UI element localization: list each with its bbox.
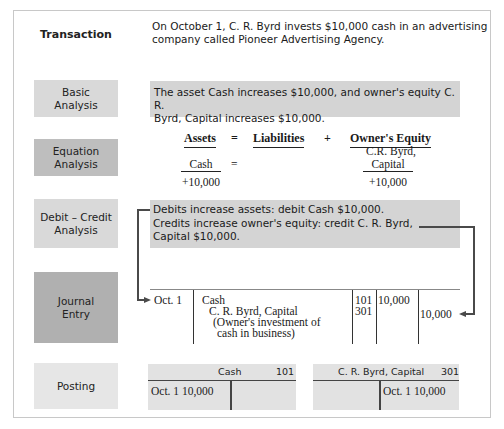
t-account-cash-debit-entry: Oct. 1 10,000 bbox=[151, 385, 214, 397]
basic-analysis-label: Basic Analysis bbox=[34, 80, 118, 117]
debit-connector-vertical bbox=[137, 209, 139, 301]
transaction-text: On October 1, C. R. Byrd invests $10,000… bbox=[152, 20, 492, 46]
t-account-capital-divider bbox=[379, 380, 381, 410]
credit-connector-horizontal-bottom bbox=[466, 313, 475, 315]
debit-credit-label-line1: Debit – Credit bbox=[40, 211, 112, 224]
journal-date: Oct. 1 bbox=[154, 295, 182, 306]
t-account-capital-credit-entry: Oct. 1 10,000 bbox=[383, 385, 446, 397]
t-account-cash-name: Cash bbox=[218, 366, 241, 377]
t-account-cash: Cash 101 Oct. 1 10,000 bbox=[148, 364, 296, 410]
equation-assets-account: Cash bbox=[181, 158, 221, 172]
transaction-text-line1: On October 1, C. R. Byrd invests $10,000… bbox=[152, 20, 492, 33]
debit-credit-text: Debits increase assets: debit Cash $10,0… bbox=[150, 200, 460, 248]
t-account-capital-name: C. R. Byrd, Capital bbox=[338, 366, 424, 377]
equation-analysis-label-line1: Equation bbox=[53, 145, 100, 158]
transaction-label: Transaction bbox=[34, 28, 118, 41]
equation-header-equals: = bbox=[231, 131, 238, 146]
journal-col-divider-4 bbox=[418, 290, 419, 344]
equation-assets-change: +10,000 bbox=[178, 176, 224, 188]
equation-header-plus: + bbox=[324, 131, 331, 146]
journal-col-divider-3 bbox=[376, 290, 377, 344]
debit-credit-text-line1: Debits increase assets: debit Cash $10,0… bbox=[153, 203, 460, 217]
equation-equity-change: +10,000 bbox=[365, 176, 411, 188]
journal-col-divider-2 bbox=[352, 290, 353, 344]
journal-entry-label-line2: Entry bbox=[58, 308, 94, 321]
basic-analysis-text: The asset Cash increases $10,000, and ow… bbox=[150, 81, 460, 117]
posting-label: Posting bbox=[34, 363, 118, 409]
posting-label-text: Posting bbox=[57, 380, 95, 393]
basic-analysis-label-line2: Analysis bbox=[54, 99, 97, 112]
equation-header-liabilities: Liabilities bbox=[253, 131, 304, 148]
equation-equity-account-line2: Capital bbox=[363, 158, 413, 172]
credit-connector-vertical bbox=[473, 226, 475, 315]
debit-credit-analysis-label: Debit – Credit Analysis bbox=[34, 199, 118, 248]
journal-debit-amount: 10,000 bbox=[378, 295, 410, 306]
debit-credit-text-line3: Capital $10,000. bbox=[153, 230, 460, 244]
equation-analysis-label-line2: Analysis bbox=[53, 158, 100, 171]
journal-credit-amount: 10,000 bbox=[420, 309, 452, 320]
journal-top-rule bbox=[150, 289, 460, 290]
journal-col-divider-1 bbox=[193, 290, 194, 344]
basic-analysis-text-line1: The asset Cash increases $10,000, and ow… bbox=[154, 86, 460, 112]
basic-analysis-text-line2: Byrd, Capital increases $10,000. bbox=[154, 112, 460, 125]
debit-credit-label-line2: Analysis bbox=[40, 224, 112, 237]
equation-equity-account-line1: C.R. Byrd, bbox=[360, 145, 422, 157]
equation-row-equals: = bbox=[231, 158, 238, 170]
credit-arrow-icon bbox=[459, 311, 466, 317]
basic-analysis-label-line1: Basic bbox=[54, 86, 97, 99]
t-account-cash-number: 101 bbox=[276, 366, 294, 377]
journal-entry-label-line1: Journal bbox=[58, 295, 94, 308]
credit-connector-horizontal-top bbox=[419, 226, 475, 228]
equation-header-assets: Assets bbox=[184, 131, 216, 148]
t-account-capital-number: 301 bbox=[441, 366, 459, 377]
journal-credit-ref: 301 bbox=[355, 306, 372, 317]
transaction-text-line2: company called Pioneer Advertising Agenc… bbox=[152, 33, 492, 46]
debit-arrow-icon bbox=[144, 297, 151, 303]
equation-analysis-label: Equation Analysis bbox=[34, 139, 118, 176]
journal-explanation-line2: cash in business) bbox=[217, 328, 295, 339]
journal-entry-label: Journal Entry bbox=[34, 272, 118, 343]
t-account-cash-divider bbox=[230, 380, 232, 410]
debit-credit-text-line2: Credits increase owner's equity: credit … bbox=[153, 217, 460, 231]
t-account-capital: C. R. Byrd, Capital 301 Oct. 1 10,000 bbox=[313, 364, 459, 410]
